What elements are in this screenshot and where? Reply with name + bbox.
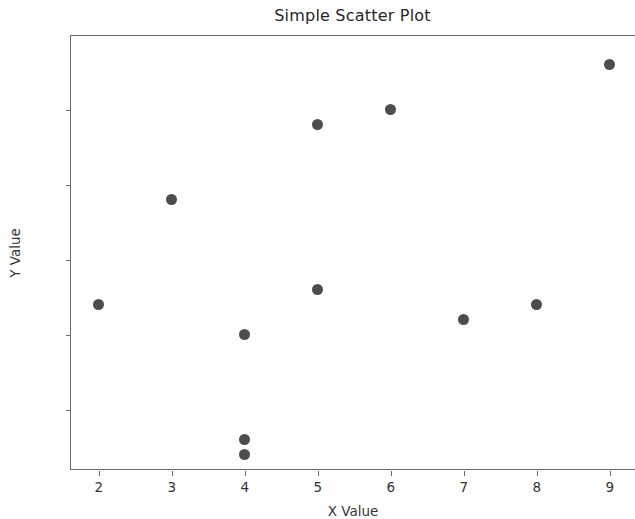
plot-area: Y Value X Value 80859095100 23456789 (70, 35, 635, 470)
data-point (239, 434, 250, 445)
x-tick-mark (245, 471, 246, 476)
x-tick-label: 4 (215, 479, 275, 495)
data-point (531, 299, 542, 310)
x-tick-label: 7 (434, 479, 494, 495)
x-tick-label: 3 (142, 479, 202, 495)
x-tick-mark (172, 471, 173, 476)
data-point (458, 314, 469, 325)
data-point (239, 329, 250, 340)
data-point (312, 119, 323, 130)
data-points-layer (71, 36, 635, 469)
x-tick-label: 2 (69, 479, 129, 495)
data-point (166, 194, 177, 205)
data-point (604, 59, 615, 70)
x-tick-label: 9 (580, 479, 635, 495)
data-point (239, 449, 250, 460)
x-tick-mark (318, 471, 319, 476)
data-point (312, 284, 323, 295)
y-axis-label: Y Value (7, 228, 23, 278)
x-tick-label: 6 (361, 479, 421, 495)
x-tick-mark (610, 471, 611, 476)
chart-title: Simple Scatter Plot (70, 6, 635, 25)
x-tick-mark (391, 471, 392, 476)
x-tick-label: 8 (507, 479, 567, 495)
x-axis-label: X Value (71, 503, 635, 519)
data-point (385, 104, 396, 115)
x-tick-mark (537, 471, 538, 476)
x-tick-label: 5 (288, 479, 348, 495)
x-tick-mark (99, 471, 100, 476)
data-point (93, 299, 104, 310)
x-tick-mark (464, 471, 465, 476)
